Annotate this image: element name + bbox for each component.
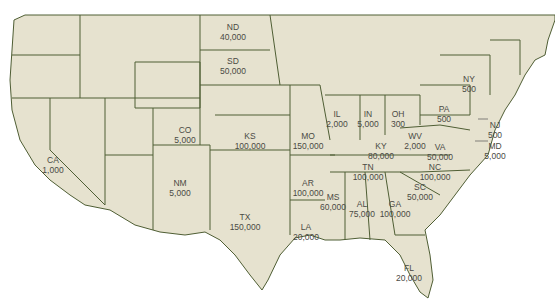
state-value: 500 [462, 84, 476, 94]
state-abbr: SD [220, 56, 246, 66]
state-value: 2,000 [326, 119, 347, 129]
state-label-oh: OH300 [391, 109, 405, 129]
state-label-ar: AR100,000 [293, 178, 324, 198]
state-value: 100,000 [380, 209, 411, 219]
state-label-ga: GA100,000 [380, 199, 411, 219]
state-abbr: OH [391, 109, 405, 119]
state-label-fl: FL20,000 [396, 263, 422, 283]
state-label-il: IL2,000 [326, 109, 347, 129]
state-value: 5,000 [357, 119, 378, 129]
state-abbr: CO [174, 125, 195, 135]
state-label-al: AL75,000 [349, 199, 375, 219]
us-map [0, 0, 555, 308]
state-abbr: FL [396, 263, 422, 273]
state-abbr: MD [484, 141, 505, 151]
state-value: 20,000 [293, 232, 319, 242]
state-label-ks: KS100,000 [235, 131, 266, 151]
state-label-sc: SC50,000 [407, 182, 433, 202]
state-abbr: ND [220, 22, 246, 32]
state-label-nc: NC100,000 [420, 162, 451, 182]
state-abbr: NY [462, 74, 476, 84]
state-label-sd: SD50,000 [220, 56, 246, 76]
state-label-pa: PA500 [437, 104, 451, 124]
state-abbr: MS [320, 192, 346, 202]
state-value: 50,000 [427, 152, 453, 162]
state-value: 150,000 [230, 222, 261, 232]
state-abbr: MO [293, 131, 324, 141]
state-label-tx: TX150,000 [230, 212, 261, 232]
state-label-in: IN5,000 [357, 109, 378, 129]
state-abbr: KY [368, 141, 394, 151]
state-label-nm: NM5,000 [169, 178, 190, 198]
state-abbr: SC [407, 182, 433, 192]
state-abbr: VA [427, 142, 453, 152]
state-label-ny: NY500 [462, 74, 476, 94]
state-abbr: GA [380, 199, 411, 209]
state-abbr: IL [326, 109, 347, 119]
state-value: 100,000 [235, 141, 266, 151]
state-value: 50,000 [220, 66, 246, 76]
state-abbr: AL [349, 199, 375, 209]
state-label-ms: MS60,000 [320, 192, 346, 212]
state-value: 500 [488, 130, 502, 140]
state-abbr: TN [353, 162, 384, 172]
state-value: 100,000 [420, 172, 451, 182]
state-value: 100,000 [353, 172, 384, 182]
state-value: 100,000 [293, 188, 324, 198]
state-abbr: AR [293, 178, 324, 188]
state-label-nd: ND40,000 [220, 22, 246, 42]
state-abbr: TX [230, 212, 261, 222]
state-value: 150,000 [293, 141, 324, 151]
state-abbr: NJ [488, 120, 502, 130]
state-label-co: CO5,000 [174, 125, 195, 145]
state-label-mo: MO150,000 [293, 131, 324, 151]
state-abbr: NM [169, 178, 190, 188]
state-value: 80,000 [368, 151, 394, 161]
state-value: 50,000 [407, 192, 433, 202]
state-value: 5,000 [169, 188, 190, 198]
state-label-ky: KY80,000 [368, 141, 394, 161]
state-label-md: MD5,000 [484, 141, 505, 161]
state-abbr: IN [357, 109, 378, 119]
state-abbr: NC [420, 162, 451, 172]
state-value: 5,000 [174, 135, 195, 145]
state-label-la: LA20,000 [293, 222, 319, 242]
state-abbr: KS [235, 131, 266, 141]
state-value: 2,000 [404, 141, 425, 151]
state-label-tn: TN100,000 [353, 162, 384, 182]
state-label-ca: CA1,000 [42, 155, 63, 175]
state-abbr: LA [293, 222, 319, 232]
state-abbr: CA [42, 155, 63, 165]
state-abbr: WV [404, 131, 425, 141]
state-value: 75,000 [349, 209, 375, 219]
state-value: 20,000 [396, 273, 422, 283]
state-value: 500 [437, 114, 451, 124]
state-value: 40,000 [220, 32, 246, 42]
state-label-wv: WV2,000 [404, 131, 425, 151]
state-value: 60,000 [320, 202, 346, 212]
state-value: 300 [391, 119, 405, 129]
state-value: 5,000 [484, 151, 505, 161]
state-value: 1,000 [42, 165, 63, 175]
state-abbr: PA [437, 104, 451, 114]
state-label-va: VA50,000 [427, 142, 453, 162]
us-landmass [10, 15, 555, 298]
state-label-nj: NJ500 [488, 120, 502, 140]
